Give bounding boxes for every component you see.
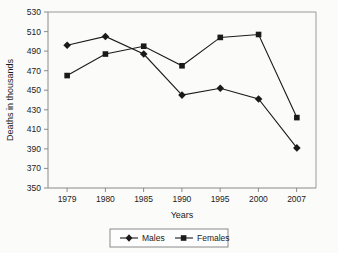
square-marker-icon <box>181 235 187 241</box>
y-tick-label: 490 <box>27 46 41 56</box>
x-tick-label: 1985 <box>134 194 153 204</box>
y-tick-label: 470 <box>27 66 41 76</box>
x-axis-ticks <box>67 188 297 192</box>
chart-legend: Males Females <box>110 229 230 247</box>
data-point-square <box>64 73 70 79</box>
x-tick-label: 2007 <box>287 194 306 204</box>
data-point-square <box>294 115 300 121</box>
data-point-square <box>217 35 223 41</box>
y-axis-title: Deaths in thousands <box>5 58 15 141</box>
y-tick-label: 510 <box>27 27 41 37</box>
x-axis-title: Years <box>171 210 194 220</box>
y-tick-label: 530 <box>27 7 41 17</box>
data-point-square <box>179 63 185 69</box>
y-tick-label: 430 <box>27 105 41 115</box>
x-tick-label: 1990 <box>172 194 191 204</box>
legend-label-males: Males <box>142 233 165 243</box>
plot-frame <box>48 12 316 188</box>
data-point-square <box>103 51 109 57</box>
x-tick-label: 1980 <box>96 194 115 204</box>
y-axis-ticks <box>44 12 48 188</box>
x-axis-tick-labels: 1979 1980 1985 1990 1995 2000 2007 <box>58 194 307 204</box>
y-tick-label: 390 <box>27 144 41 154</box>
data-point-square <box>141 43 147 49</box>
y-tick-label: 410 <box>27 124 41 134</box>
chart-container: 530 510 490 470 450 430 410 390 370 350 <box>0 0 338 253</box>
line-chart: 530 510 490 470 450 430 410 390 370 350 <box>0 0 338 253</box>
legend-label-females: Females <box>197 233 230 243</box>
y-tick-label: 370 <box>27 163 41 173</box>
data-point-square <box>256 32 262 38</box>
y-tick-label: 350 <box>27 183 41 193</box>
x-tick-label: 1979 <box>58 194 77 204</box>
x-tick-label: 1995 <box>211 194 230 204</box>
y-tick-label: 450 <box>27 85 41 95</box>
x-tick-label: 2000 <box>249 194 268 204</box>
y-axis-tick-labels: 530 510 490 470 450 430 410 390 370 350 <box>27 7 41 193</box>
chart-svg: 530 510 490 470 450 430 410 390 370 350 <box>0 0 338 253</box>
